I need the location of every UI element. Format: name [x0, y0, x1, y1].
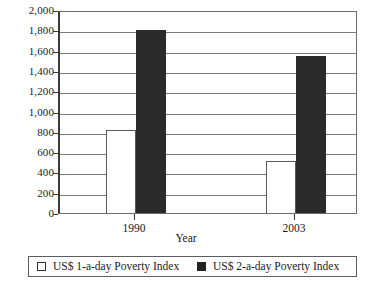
plot-area	[58, 11, 357, 214]
y-axis-tick-mark	[53, 214, 58, 215]
legend-entry: US$ 2-a-day Poverty Index	[197, 257, 339, 276]
y-axis-tick-label: 400	[0, 167, 54, 178]
dark-square-swatch	[197, 262, 206, 271]
y-axis-tick-label: 200	[0, 188, 54, 199]
light-square-swatch	[37, 262, 46, 271]
y-axis-tick-label: 1,400	[0, 66, 54, 77]
legend-label: US$ 2-a-day Poverty Index	[213, 260, 339, 273]
x-axis-tick-mark	[134, 214, 135, 220]
bar-2003-series0	[266, 161, 296, 213]
x-axis-tick-mark	[294, 214, 295, 220]
y-axis-tick-label: 1,600	[0, 46, 54, 57]
y-axis-tick-label: 2,000	[0, 5, 54, 16]
x-axis-title: Year	[0, 232, 372, 245]
bar-1990-series1	[136, 30, 166, 213]
y-axis-tick-label: 0	[0, 208, 54, 219]
y-axis-tick-label: 600	[0, 147, 54, 158]
gridline	[60, 32, 356, 33]
y-axis-tick-label: 1,200	[0, 86, 54, 97]
bar-2003-series1	[296, 56, 326, 213]
y-axis-tick-label: 1,000	[0, 107, 54, 118]
chart-legend: US$ 1-a-day Poverty IndexUS$ 2-a-day Pov…	[28, 256, 357, 277]
legend-label: US$ 1-a-day Poverty Index	[53, 260, 179, 273]
y-axis-tick-label: 800	[0, 127, 54, 138]
bar-1990-series0	[106, 130, 136, 213]
bar-chart-figure: 02004006008001,0001,2001,4001,6001,8002,…	[0, 0, 372, 283]
legend-entry: US$ 1-a-day Poverty Index	[37, 257, 179, 276]
gridline	[60, 53, 356, 54]
y-axis-tick-label: 1,800	[0, 25, 54, 36]
